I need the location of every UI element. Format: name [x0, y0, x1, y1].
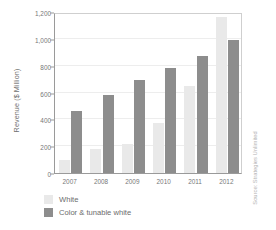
bar — [71, 111, 82, 173]
bar — [134, 80, 145, 173]
legend-item: White — [44, 193, 131, 206]
plot-area — [54, 13, 242, 174]
bar — [59, 160, 70, 173]
bar — [165, 68, 176, 173]
legend-label: Color & tunable white — [59, 208, 131, 217]
bar-group — [55, 14, 86, 173]
x-axis-tick-label: 2011 — [188, 178, 202, 185]
bar — [228, 40, 239, 173]
legend: WhiteColor & tunable white — [44, 193, 131, 219]
bar — [184, 86, 195, 173]
bar — [90, 149, 101, 173]
x-axis-tick-label: 2010 — [157, 178, 171, 185]
bar-group — [180, 14, 211, 173]
y-axis-tick-label: 400 — [11, 117, 51, 124]
bar — [216, 17, 227, 173]
legend-swatch — [44, 195, 53, 204]
chart-figure: Revenue ($ Million) 02004006008001,0001,… — [0, 0, 276, 230]
x-axis-tick-label: 2008 — [94, 178, 108, 185]
source-credit-text: Source: Strategies Unlimited — [252, 131, 258, 204]
bar — [153, 123, 164, 173]
legend-item: Color & tunable white — [44, 206, 131, 219]
bar — [122, 144, 133, 173]
bar-group — [118, 14, 149, 173]
bar — [197, 56, 208, 173]
y-axis-tick-label: 1,200 — [11, 10, 51, 17]
source-credit: Source: Strategies Unlimited — [248, 118, 262, 218]
bar — [103, 95, 114, 173]
bar-group — [149, 14, 180, 173]
legend-label: White — [59, 195, 78, 204]
bar-group — [86, 14, 117, 173]
y-axis-tick-label: 0 — [11, 171, 51, 178]
y-axis-tick-label: 800 — [11, 63, 51, 70]
y-axis-tick-label: 200 — [11, 144, 51, 151]
bar-group — [212, 14, 243, 173]
x-axis-tick-label: 2007 — [63, 178, 77, 185]
x-axis-tick-label: 2009 — [125, 178, 139, 185]
y-axis-tick-label: 1,000 — [11, 36, 51, 43]
x-axis-tick-label: 2012 — [219, 178, 233, 185]
y-axis-tick-label: 600 — [11, 90, 51, 97]
legend-swatch — [44, 208, 53, 217]
y-axis-title: Revenue ($ Million) — [9, 40, 25, 160]
